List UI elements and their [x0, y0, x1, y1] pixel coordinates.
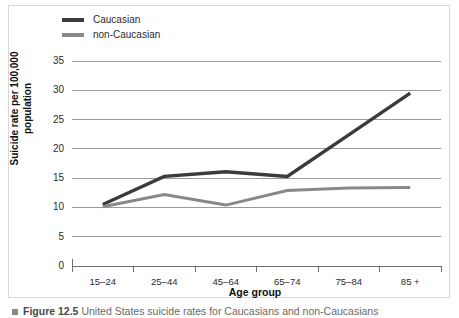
y-axis-tick-label: 15 — [38, 173, 64, 183]
series-lines — [103, 93, 411, 207]
y-axis-tick-label: 30 — [38, 85, 64, 95]
y-axis-title: Suicide rate per 100,000 population — [9, 44, 34, 174]
y-axis-title-line2: population — [21, 44, 34, 174]
y-axis-tick-label: 35 — [38, 56, 64, 66]
y-axis-tick-label: 5 — [38, 232, 64, 242]
series-line-non-caucasian — [103, 188, 411, 207]
x-axis-title: Age group — [70, 286, 440, 298]
y-axis-tick-label: 20 — [38, 144, 64, 154]
axes — [72, 259, 441, 272]
figure-number: Figure 12.5 — [23, 305, 78, 317]
gridlines — [72, 61, 441, 237]
y-axis-title-line1: Suicide rate per 100,000 — [9, 44, 22, 174]
plot-area: 05101520253035 15–2425–4445–6465–7475–84… — [0, 0, 459, 318]
chart-svg — [0, 0, 459, 318]
y-axis-tick-label: 10 — [38, 202, 64, 212]
figure-caption-text: United States suicide rates for Caucasia… — [81, 305, 378, 317]
square-bullet-icon — [12, 309, 18, 315]
figure-container: Caucasian non-Caucasian 05101520253035 1… — [0, 0, 459, 318]
y-axis-tick-label: 0 — [38, 261, 64, 271]
y-axis-tick-label: 25 — [38, 115, 64, 125]
figure-caption: Figure 12.5 United States suicide rates … — [12, 305, 452, 317]
